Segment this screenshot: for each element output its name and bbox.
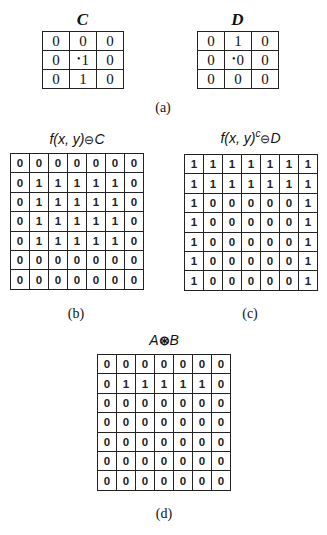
cell-value: 0 [286,275,292,287]
cell-value: 0 [286,197,292,209]
grid-cell: 0 [97,70,124,89]
grid-cell: 0 [43,70,70,89]
grid-cell: 0 [193,393,212,412]
grid-cell: 1 [30,192,49,211]
grid-cell: 0 [174,355,193,374]
cell-value: 1 [229,158,235,170]
grid-cell: 0 [198,32,225,51]
grid-row: 0000000 [11,270,144,289]
cell-value: 0 [248,255,254,267]
grid-cell: 1 [280,174,299,193]
cell-value: 0 [161,436,167,448]
structuring-element-d-grid: 0100•00000 [197,31,279,89]
cell-value: 0 [79,33,87,49]
cell-value: 1 [191,197,197,209]
grid-cell: 1 [30,173,49,192]
grid-cell: 0 [198,70,225,89]
cell-value: 0 [104,455,110,467]
grid-cell: 0 [280,251,299,270]
cell-value: 0 [229,275,235,287]
grid-cell: 0 [136,393,155,412]
cell-value: 0 [248,216,254,228]
grid-cell: 0 [106,250,125,269]
grid-cell: 1 [185,193,204,212]
grid-cell: 0 [174,451,193,470]
grid-cell: 1 [299,232,318,251]
cell-value: 1 [305,178,311,190]
grid-cell: 0 [11,192,30,211]
grid-cell: 0 [261,193,280,212]
grid-cell: 0 [204,251,223,270]
grid-cell: 0 [280,193,299,212]
grid-cell: 0 [223,251,242,270]
cell-value: 0 [180,475,186,487]
grid-row: 1111111 [185,155,318,174]
grid-cell: 0 [174,413,193,432]
cell-value: 0 [123,358,129,370]
cell-value: 1 [210,178,216,190]
grid-cell: 0 [98,413,117,432]
grid-cell: 0 [125,231,144,250]
cell-value: 0 [210,255,216,267]
grid-cell: 1 [185,271,204,290]
cell-value: 0 [17,215,23,227]
cell-value: 1 [191,236,197,248]
grid-cell: 0 [49,270,68,289]
grid-cell: 0 [30,270,49,289]
cell-value: 0 [17,254,23,266]
cell-value: 1 [93,177,99,189]
grid-cell: •1 [70,51,97,70]
grid-cell: 0 [252,51,279,70]
grid-cell: 0 [97,51,124,70]
cell-value: 0 [52,71,60,87]
cell-value: 0 [17,235,23,247]
cell-value: 1 [191,158,197,170]
grid-cell: 1 [87,173,106,192]
complement-erosion-d-grid: 1111111111111110000011000001100000110000… [184,154,318,291]
grid-cell: 1 [70,70,97,89]
grid-cell: 0 [106,270,125,289]
cell-value: 0 [55,157,61,169]
cell-value: 0 [207,52,215,68]
grid-cell: 0 [193,451,212,470]
grid-cell: 0 [43,32,70,51]
cell-value: 0 [93,254,99,266]
cell-value: 1 [93,196,99,208]
grid-row: 010 [43,70,124,89]
cell-value: 0 [55,274,61,286]
cell-value: 0 [161,416,167,428]
grid-cell: •0 [225,51,252,70]
grid-cell: 0 [49,250,68,269]
grid-cell: 0 [11,173,30,192]
cell-value: 0 [123,475,129,487]
grid-row: 0000000 [98,355,231,374]
cell-value: 0 [131,177,137,189]
grid-cell: 0 [49,154,68,173]
cell-value: 0 [74,274,80,286]
cell-value: 0 [161,475,167,487]
cell-value: 0 [199,416,205,428]
grid-cell: 1 [299,174,318,193]
grid-cell: 0 [98,471,117,490]
caption-a: (a) [143,100,183,116]
grid-cell: 0 [125,154,144,173]
cell-value: 1 [286,158,292,170]
grid-cell: 0 [11,212,30,231]
grid-cell: 1 [136,374,155,393]
grid-cell: 1 [106,173,125,192]
cell-value: 0 [112,157,118,169]
grid-cell: 1 [299,193,318,212]
cell-value: 0 [267,255,273,267]
grid-cell: 0 [223,271,242,290]
grid-cell: 1 [68,212,87,231]
cell-value: 0 [93,274,99,286]
cell-value: 1 [36,235,42,247]
grid-cell: 1 [155,374,174,393]
title-post: D [270,130,280,146]
grid-cell: 1 [280,155,299,174]
grid-cell: 1 [49,173,68,192]
grid-cell: 0 [97,32,124,51]
title-post: B [170,332,179,348]
grid-cell: 0 [193,355,212,374]
cell-value: 1 [267,178,273,190]
